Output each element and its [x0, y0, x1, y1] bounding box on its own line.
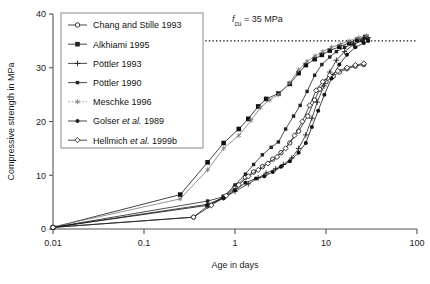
- data-point: [305, 90, 308, 93]
- data-point: [292, 133, 297, 138]
- data-point: [221, 141, 226, 146]
- data-point: [335, 50, 338, 53]
- x-tick-label: 0.01: [44, 238, 62, 248]
- data-point: [366, 39, 370, 43]
- data-point: [353, 45, 357, 49]
- data-point: [271, 170, 275, 174]
- chart-canvas: 0102030400.010.1110100Age in daysCompres…: [0, 0, 430, 284]
- data-point: [337, 63, 341, 67]
- legend-marker: [75, 42, 80, 47]
- y-tick-label: 20: [36, 117, 46, 127]
- x-tick-label: 0.1: [138, 238, 151, 248]
- data-point: [178, 192, 183, 197]
- y-tick-label: 0: [41, 224, 46, 234]
- data-point: [261, 153, 264, 156]
- data-point: [262, 174, 266, 178]
- data-point: [205, 160, 210, 165]
- data-point: [322, 93, 326, 97]
- legend-label: Chang and Stille 1993: [93, 20, 182, 30]
- legend-label: Golser et al. 1989: [93, 116, 164, 126]
- y-axis-title: Compressive strength in MPa: [6, 62, 16, 180]
- data-point: [246, 117, 251, 122]
- data-point: [345, 53, 349, 57]
- legend-marker: [76, 119, 80, 123]
- y-tick-label: 30: [36, 63, 46, 73]
- data-point: [298, 104, 301, 107]
- data-point: [362, 41, 366, 45]
- compressive-strength-chart: 0102030400.010.1110100Age in daysCompres…: [0, 0, 430, 284]
- legend-marker: [76, 81, 79, 84]
- y-tick-label: 40: [36, 9, 46, 19]
- data-point: [300, 119, 305, 124]
- data-point: [310, 125, 314, 129]
- data-point: [243, 181, 247, 185]
- x-axis-title: Age in days: [211, 260, 259, 270]
- data-point: [284, 127, 287, 130]
- legend-label: Hellmich et al. 1999b: [93, 136, 177, 146]
- data-point: [206, 199, 209, 202]
- data-point: [270, 146, 273, 149]
- legend-label: Alkhiami 1995: [93, 40, 150, 50]
- data-point: [352, 42, 355, 45]
- legend: Chang and Stille 1993Alkhiami 1995Pöttle…: [61, 13, 203, 148]
- legend-label: Pöttler 1990: [93, 78, 142, 88]
- data-point: [328, 55, 331, 58]
- data-point: [304, 141, 308, 145]
- data-point: [313, 74, 316, 77]
- data-point: [279, 165, 283, 169]
- data-point: [316, 109, 320, 113]
- data-point: [343, 46, 346, 49]
- data-point: [277, 140, 280, 143]
- x-tick-label: 1: [232, 238, 237, 248]
- fcu-annotation-label: fcu= 35 MPa: [232, 14, 283, 27]
- legend-marker: [75, 23, 79, 27]
- legend-label: Meschke 1996: [93, 97, 152, 107]
- data-point: [292, 114, 295, 117]
- data-point: [297, 151, 301, 155]
- data-point: [288, 159, 292, 163]
- x-tick-label: 10: [321, 238, 331, 248]
- y-tick-label: 10: [36, 171, 46, 181]
- data-point: [306, 114, 310, 118]
- data-point: [236, 127, 241, 132]
- data-point: [254, 176, 258, 180]
- legend-label: Pöttler 1993: [93, 59, 142, 69]
- data-point: [252, 163, 255, 166]
- data-point: [320, 63, 323, 66]
- x-tick-label: 100: [409, 238, 424, 248]
- data-point: [312, 98, 316, 102]
